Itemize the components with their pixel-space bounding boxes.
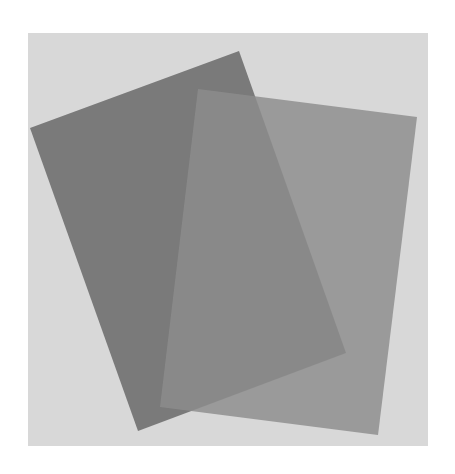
photo-canvas — [0, 0, 455, 474]
photo-scene — [0, 0, 455, 474]
light-sheet-front — [160, 89, 417, 435]
